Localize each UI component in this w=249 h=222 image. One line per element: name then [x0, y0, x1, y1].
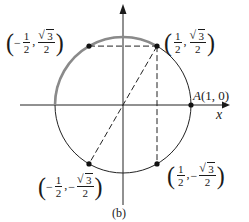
close-paren: ) — [95, 174, 103, 199]
comma: , — [184, 35, 187, 55]
open-paren: ( — [164, 30, 172, 55]
y-denominator: 2 — [83, 187, 89, 199]
x-fraction: 1 2 — [174, 30, 182, 55]
x-sign: − — [14, 37, 21, 49]
y-fraction: 3 2 — [77, 174, 94, 199]
x-axis-label: x — [216, 108, 222, 122]
sqrt-radicand: 3 — [85, 173, 93, 186]
open-paren: ( — [38, 174, 46, 199]
open-paren: ( — [167, 163, 175, 188]
x-denominator: 2 — [175, 43, 181, 55]
point-p2-dot — [86, 44, 91, 49]
y-sign: − — [68, 181, 75, 193]
x-fraction: 1 2 — [55, 174, 63, 199]
sqrt-radicand: 3 — [198, 29, 206, 42]
x-numerator: 1 — [177, 163, 185, 176]
y-numerator: 3 — [190, 30, 207, 43]
comma: , — [187, 168, 190, 188]
point-a-coords: (1, 0) — [201, 89, 229, 102]
y-denominator: 2 — [205, 176, 211, 188]
y-axis-arrow-icon — [120, 4, 127, 14]
x-numerator: 1 — [23, 30, 31, 43]
close-paren: ) — [207, 30, 215, 55]
y-denominator: 2 — [44, 43, 50, 55]
x-numerator: 1 — [174, 30, 182, 43]
y-numerator: 3 — [199, 163, 216, 176]
label-point-a: A (1, 0) — [193, 89, 229, 102]
y-numerator: 3 — [77, 174, 94, 187]
y-numerator: 3 — [38, 30, 55, 43]
highlighted-arc — [55, 37, 157, 105]
y-fraction: 3 2 — [190, 30, 207, 55]
x-denominator: 2 — [24, 43, 30, 55]
sqrt-radicand: 3 — [207, 162, 215, 175]
point-p1-dot — [154, 44, 159, 49]
x-numerator: 1 — [55, 174, 63, 187]
y-fraction: 3 2 — [38, 30, 55, 55]
y-denominator: 2 — [195, 43, 201, 55]
x-denominator: 2 — [178, 176, 184, 188]
point-p4-dot — [154, 161, 159, 166]
label-point-p3: ( − 1 2 , − 3 2 ) — [38, 174, 103, 199]
point-p3-dot — [86, 161, 91, 166]
sqrt-radicand: 3 — [46, 29, 54, 42]
x-sign: − — [46, 181, 53, 193]
x-fraction: 1 2 — [177, 163, 185, 188]
comma: , — [64, 179, 67, 199]
y-fraction: 3 2 — [199, 163, 216, 188]
open-paren: ( — [6, 30, 14, 55]
comma: , — [32, 35, 35, 55]
point-a-dot — [188, 102, 193, 107]
label-point-p4: ( 1 2 , − 3 2 ) — [167, 163, 225, 188]
label-point-p1: ( 1 2 , 3 2 ) — [164, 30, 215, 55]
point-a-name: A — [193, 89, 201, 102]
x-fraction: 1 2 — [23, 30, 31, 55]
label-point-p2: ( − 1 2 , 3 2 ) — [6, 30, 64, 55]
y-sign: − — [191, 170, 198, 182]
close-paren: ) — [56, 30, 64, 55]
figure-caption: (b) — [112, 207, 126, 219]
close-paren: ) — [217, 163, 225, 188]
x-denominator: 2 — [56, 187, 62, 199]
